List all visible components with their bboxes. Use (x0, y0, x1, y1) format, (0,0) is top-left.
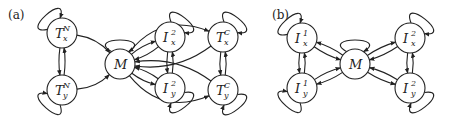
node-superscript: 1 (303, 29, 308, 38)
node-circle (287, 73, 317, 103)
node-b-Ix2: I2x (395, 23, 425, 53)
node-label: I (294, 81, 301, 96)
node-superscript: 1 (303, 79, 308, 88)
node-superscript: 2 (170, 79, 176, 88)
node-superscript: N (62, 24, 71, 33)
edge-Ix2-M-b (369, 47, 397, 60)
edge-Ix2-M (134, 47, 158, 60)
node-label: I (162, 81, 169, 96)
edge-M-Iy1 (317, 72, 343, 84)
node-label: I (162, 30, 169, 45)
edge-TxN-TyN (59, 48, 60, 75)
node-circle (395, 73, 425, 103)
node-b-Iy2: I2y (395, 73, 425, 103)
node-subscript: y (302, 89, 308, 98)
node-superscript: C (224, 81, 230, 90)
node-superscript: C (224, 28, 230, 37)
node-a-TxC: TCx (208, 22, 238, 52)
diagram: (a) (b) TNxTNyMI2xI2yTCxTCyI1xI1yMI2xI2y (0, 0, 458, 128)
edge-Iy1-Ix1 (304, 53, 305, 73)
node-label: I (402, 31, 409, 46)
node-subscript: x (63, 34, 68, 43)
node-subscript: y (170, 89, 176, 98)
node-subscript: x (303, 39, 308, 48)
node-subscript: y (62, 91, 68, 100)
node-b-Ix1: I1x (287, 23, 317, 53)
node-a-Iy2: I2y (155, 73, 185, 103)
node-label: M (113, 57, 128, 72)
edge-TyC-TxC (225, 52, 226, 75)
edge-Ix1-Iy1 (299, 53, 300, 73)
node-label: I (294, 31, 301, 46)
edge-M-Ix2 (131, 41, 155, 54)
edge-Ix2-Iy2-b (407, 53, 408, 73)
node-label: I (402, 81, 409, 96)
node-superscript: 2 (410, 29, 416, 38)
node-superscript: 2 (410, 79, 416, 88)
node-a-M: M (105, 49, 135, 79)
edge-Iy2-M-b (370, 68, 398, 80)
node-circle (155, 73, 185, 103)
node-circle (287, 23, 317, 53)
edge-Iy2-Ix2-b (412, 53, 413, 73)
node-a-TyC: TCy (208, 75, 238, 105)
node-subscript: x (411, 39, 416, 48)
edge-M-Ix2-b (367, 42, 395, 55)
node-circle (395, 23, 425, 53)
edge-M-Ix1 (316, 42, 342, 55)
edge-TxC-TyC (220, 52, 221, 75)
node-subscript: y (410, 89, 416, 98)
edge-TxN-M (77, 35, 110, 53)
edge-M-Iy2-b (368, 72, 396, 84)
node-label: M (348, 57, 363, 72)
panel-a-label: (a) (8, 8, 25, 22)
node-circle (155, 22, 185, 52)
node-b-M: M (340, 49, 370, 79)
edge-Ix1-M (314, 47, 340, 60)
edge-TyN-TxN (64, 48, 65, 75)
node-a-TxN: TNx (47, 18, 77, 48)
node-subscript: x (224, 38, 229, 47)
node-superscript: 2 (170, 28, 176, 37)
node-b-Iy1: I1y (287, 73, 317, 103)
edge-TyN-M (77, 75, 109, 90)
node-a-TyN: TNy (47, 75, 77, 105)
node-a-Ix2: I2x (155, 22, 185, 52)
node-subscript: x (171, 38, 176, 47)
node-subscript: y (223, 91, 229, 100)
node-superscript: N (62, 81, 71, 90)
edge-Iy1-M (314, 68, 340, 80)
